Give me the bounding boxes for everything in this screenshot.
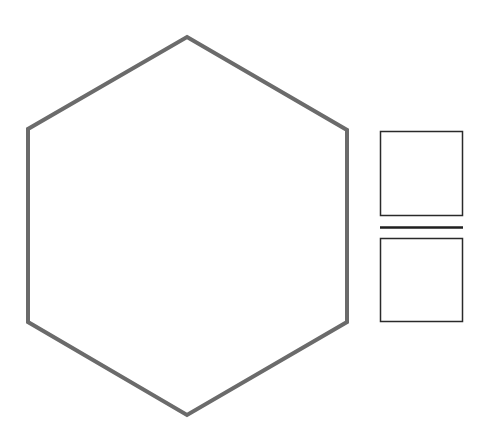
diagram-canvas	[0, 0, 500, 444]
